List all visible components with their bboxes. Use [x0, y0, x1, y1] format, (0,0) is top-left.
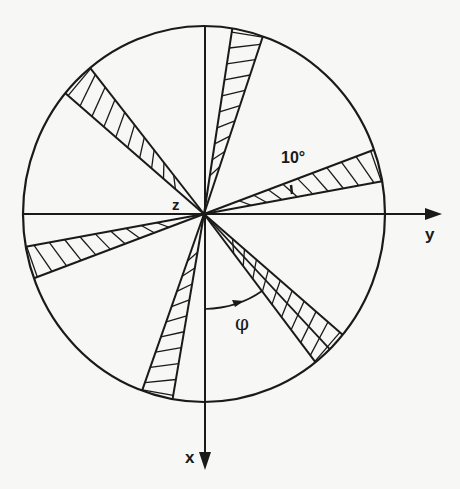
wedge-upper-left [65, 68, 204, 214]
y-axis-arrowhead-icon [425, 208, 442, 220]
x-axis-label: x [185, 448, 195, 467]
y-axis-label: y [425, 225, 435, 244]
wedge-lower-right [204, 214, 343, 362]
phi-label: φ [235, 311, 249, 335]
z-axis-label: z [172, 196, 180, 213]
wedge-upper-right [204, 28, 263, 214]
wedge-lower-left [142, 214, 204, 399]
ten-degree-tick [291, 185, 292, 194]
phi-arc [205, 291, 262, 309]
sector-diagram: y x z 10° φ [0, 0, 460, 489]
wedge-left [26, 214, 204, 278]
angle-label: 10° [281, 149, 305, 166]
x-axis-arrowhead-icon [199, 452, 211, 470]
phi-arrowhead-icon [232, 300, 244, 307]
